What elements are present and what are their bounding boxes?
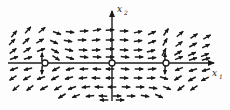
y-axis-label-subscript: 2 <box>123 9 128 16</box>
left-equilibrium <box>42 60 48 66</box>
x-axis-label-text: x <box>212 68 217 78</box>
field-arrow <box>80 69 88 70</box>
right-equilibrium <box>163 60 169 66</box>
field-arrow <box>134 50 142 51</box>
x-axis-label-subscript: 1 <box>219 73 223 80</box>
field-arrow <box>148 69 156 70</box>
vector-field-plot: x 1 x 2 <box>0 0 230 110</box>
field-arrow <box>79 78 87 79</box>
origin-equilibrium <box>109 60 115 66</box>
y-axis-label-text: x <box>117 4 122 14</box>
field-arrow <box>79 50 87 51</box>
field-arrow <box>120 78 128 79</box>
phase-portrait-figure: x 1 x 2 <box>0 0 230 110</box>
field-arrow <box>121 57 129 58</box>
field-arrow <box>120 50 128 51</box>
field-arrow <box>92 40 100 41</box>
field-arrow <box>121 69 129 70</box>
plot-background <box>0 0 230 110</box>
field-arrow <box>106 30 114 31</box>
field-arrow <box>147 78 155 79</box>
